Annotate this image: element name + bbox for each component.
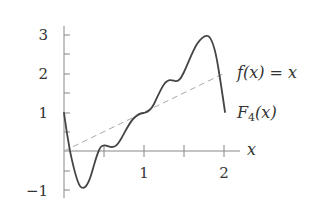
F4-label-main: F <box>236 103 249 122</box>
y-tick-label-2: 2 <box>38 65 48 83</box>
x-tick-label-2: 2 <box>219 164 229 182</box>
y-tick-label-neg1: −1 <box>26 182 48 200</box>
x-tick-label-1: 1 <box>139 164 149 182</box>
F4-label-arg: (x) <box>255 103 277 122</box>
y-ticks <box>64 35 70 190</box>
F4-label: F4(x) <box>236 103 277 124</box>
x-axis-label: x <box>247 140 256 159</box>
y-tick-label-3: 3 <box>38 26 48 44</box>
f-label: f(x) = x <box>236 63 297 82</box>
chart: 3 2 1 −1 1 2 f(x) = x F4(x) x <box>0 0 335 201</box>
F4-label-sub: 4 <box>248 111 255 124</box>
y-tick-label-1: 1 <box>38 104 48 122</box>
